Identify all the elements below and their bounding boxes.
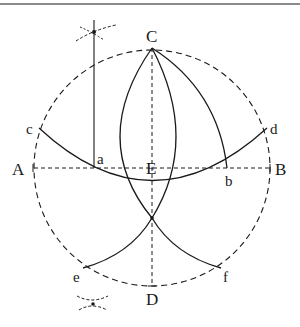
construction-diagram: A B C D E a b c d e f (0, 0, 300, 327)
arc-to-f (152, 218, 221, 268)
construction-mark-top (76, 25, 116, 41)
arc-to-e (83, 218, 152, 268)
construction-mark-bottom (77, 296, 108, 310)
label-c: c (26, 121, 33, 137)
arc-C-left (120, 48, 152, 218)
label-a: a (97, 151, 104, 167)
label-C: C (146, 27, 157, 46)
label-D: D (146, 290, 158, 309)
label-d: d (270, 121, 278, 137)
arc-C-right-inner (152, 48, 176, 218)
label-E: E (146, 159, 156, 178)
diagram-frame: A B C D E a b c d e f (0, 0, 300, 327)
arc-C-b (152, 48, 227, 168)
label-e: e (73, 269, 80, 285)
lower-intersection-point (150, 216, 154, 220)
label-A: A (12, 160, 25, 179)
label-B: B (275, 160, 286, 179)
label-b: b (225, 173, 233, 189)
label-f: f (223, 269, 228, 285)
